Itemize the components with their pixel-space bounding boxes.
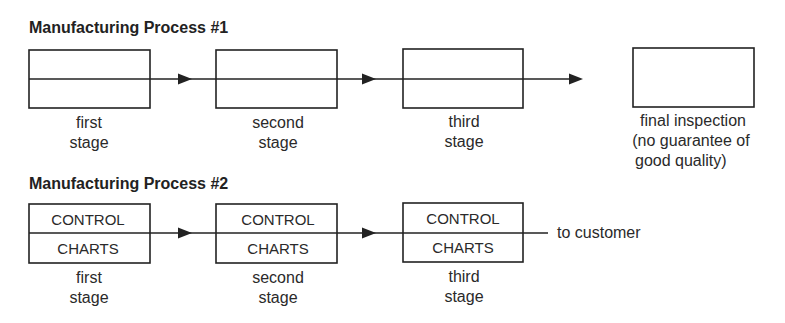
arrow-icon: [569, 74, 583, 85]
arrow-icon: [178, 74, 192, 85]
stage-label: third: [448, 268, 479, 285]
control-label: CONTROL: [241, 211, 314, 228]
final-inspection-box: [633, 48, 754, 107]
process-diagram: Manufacturing Process #1 first stage sec…: [0, 0, 785, 323]
stage-label: stage: [444, 288, 483, 305]
final-label: final inspection: [640, 112, 746, 129]
stage-label: second: [252, 269, 304, 286]
stage-label: second: [252, 114, 304, 131]
stage-label: stage: [258, 289, 297, 306]
stage-label: stage: [69, 289, 108, 306]
process1-title: Manufacturing Process #1: [29, 19, 228, 36]
arrow-icon: [362, 228, 376, 239]
stage-label: third: [448, 113, 479, 130]
process2-stage-third: CONTROL CHARTS third stage: [403, 203, 523, 305]
process1-stage-first: first stage: [29, 50, 150, 151]
to-customer-label: to customer: [557, 224, 641, 241]
arrow-icon: [362, 74, 376, 85]
charts-label: CHARTS: [247, 240, 308, 257]
process1-final-inspection: final inspection (no guarantee of good q…: [632, 48, 754, 169]
process1-stage-second: second stage: [216, 50, 337, 151]
stage-label: first: [76, 269, 102, 286]
process2-title: Manufacturing Process #2: [29, 175, 228, 192]
final-label: good quality): [635, 152, 727, 169]
arrow-icon: [178, 228, 192, 239]
control-label: CONTROL: [426, 210, 499, 227]
process2-stage-second: CONTROL CHARTS second stage: [216, 204, 337, 306]
stage-label: stage: [444, 133, 483, 150]
charts-label: CHARTS: [57, 240, 118, 257]
process2-stage-first: CONTROL CHARTS first stage: [29, 204, 150, 306]
stage-label: first: [76, 114, 102, 131]
charts-label: CHARTS: [432, 239, 493, 256]
stage-label: stage: [258, 134, 297, 151]
stage-label: stage: [69, 134, 108, 151]
process1-stage-third: third stage: [403, 49, 523, 150]
control-label: CONTROL: [51, 211, 124, 228]
final-label: (no guarantee of: [632, 132, 750, 149]
